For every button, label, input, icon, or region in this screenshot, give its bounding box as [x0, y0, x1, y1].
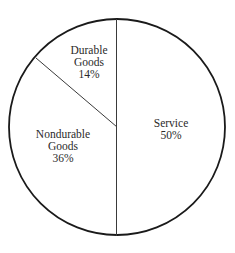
service-label: Service [154, 117, 188, 129]
durable-label-line1: Durable [70, 44, 107, 56]
durable-label-line2: Goods [74, 56, 105, 68]
nondurable-label-line1: Nondurable [36, 128, 90, 140]
nondurable-value: 36% [52, 152, 74, 164]
nondurable-label-line2: Goods [48, 140, 79, 152]
service-value: 50% [160, 129, 182, 141]
durable-value: 14% [78, 68, 100, 80]
pie-chart: Durable Goods 14% Nondurable Goods 36% S… [0, 0, 235, 253]
